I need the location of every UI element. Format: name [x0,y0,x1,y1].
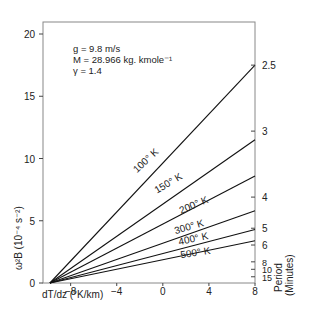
period-tick-label: 6 [262,240,268,251]
param-g: g = 9.8 m/s [73,43,172,54]
series-label: 200° K [178,194,210,216]
period-label-1: Period [273,263,284,292]
period-tick-label: 3 [262,126,268,137]
series-label: 500° K [180,245,212,261]
x-tick-label: −4 [111,286,123,297]
series-line [50,176,255,283]
x-axis-label: dT/dz (°K/km) [42,289,103,300]
x-tick-label: 4 [206,286,212,297]
y-tick-label: 5 [29,216,35,227]
x-tick-label: 0 [160,286,166,297]
series-label: 150° K [152,170,184,195]
period-tick-label: 2.5 [262,60,276,71]
x-tick-label: 8 [252,286,258,297]
y-tick-label: 0 [29,278,35,289]
y-axis-label: ω²B (10⁻⁴ s⁻²) [13,206,24,270]
y-tick-label: 15 [24,91,36,102]
period-tick-label: 15 [262,273,272,283]
y-tick-label: 20 [24,29,36,40]
period-tick-label: 4 [262,192,268,203]
period-label-2: (Minutes) [284,254,295,296]
series-lines [50,65,255,283]
param-M: M = 28.966 kg. kmole⁻¹ [73,54,172,65]
series-line [50,229,255,283]
parameters-annotation: g = 9.8 m/s M = 28.966 kg. kmole⁻¹ γ = 1… [73,43,172,76]
series-labels: 100° K150° K200° K300° K400° K500° K [131,146,212,260]
period-tick-label: 5 [262,223,268,234]
y-axis-ticks: 05101520 [24,29,43,289]
series-line [50,65,255,283]
y-tick-label: 10 [24,154,36,165]
param-gamma: γ = 1.4 [73,65,172,76]
